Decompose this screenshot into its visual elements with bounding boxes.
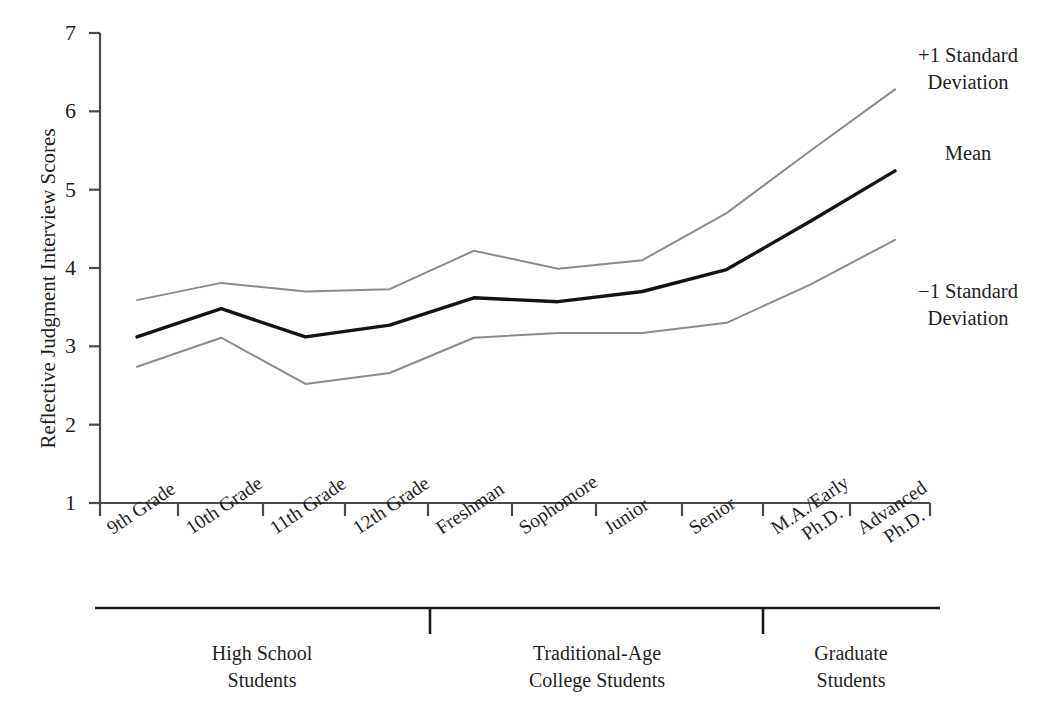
group-label-0: High SchoolStudents [132, 640, 392, 694]
y-axis-title: Reflective Judgment Interview Scores [36, 124, 61, 454]
chart-plot-area [0, 0, 1046, 722]
series-line-0 [137, 89, 895, 300]
group-label-line: Students [746, 667, 956, 694]
y-axis-tick-label: 6 [46, 100, 76, 122]
axes-layer [89, 33, 930, 516]
group-label-2: GraduateStudents [746, 640, 956, 694]
series-label-line: +1 Standard [898, 42, 1038, 69]
series-label-line: −1 Standard [898, 278, 1038, 305]
group-rule-layer [95, 608, 940, 634]
series-line-2 [137, 240, 895, 384]
y-axis-tick-label: 7 [46, 22, 76, 44]
chart-figure: 1234567 Reflective Judgment Interview Sc… [0, 0, 1046, 722]
series-label-line: Mean [898, 140, 1038, 167]
series-line-1 [137, 171, 895, 337]
group-label-line: High School [132, 640, 392, 667]
group-label-1: Traditional-AgeCollege Students [447, 640, 747, 694]
series-label-line: Deviation [898, 69, 1038, 96]
group-label-line: Students [132, 667, 392, 694]
series-layer [137, 89, 895, 384]
group-label-line: College Students [447, 667, 747, 694]
series-label-1: Mean [898, 140, 1038, 167]
y-axis-tick-label: 1 [46, 492, 76, 514]
series-label-2: −1 StandardDeviation [898, 278, 1038, 331]
group-label-line: Traditional-Age [447, 640, 747, 667]
series-label-0: +1 StandardDeviation [898, 42, 1038, 95]
series-label-line: Deviation [898, 305, 1038, 332]
group-label-line: Graduate [746, 640, 956, 667]
